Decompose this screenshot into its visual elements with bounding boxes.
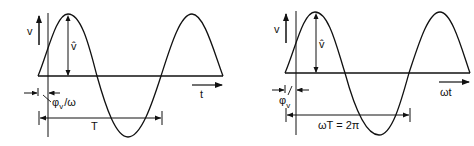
phase-leader [43,95,51,102]
time-domain-diagram [24,13,223,137]
phase-leader [288,86,292,95]
phase-label: φv [279,94,290,110]
period-label: ωT = 2π [318,119,360,131]
t-axis-label: t [200,88,203,100]
omega-t-axis-label: ωt [440,86,452,98]
phase-label: φv/ω [52,96,76,111]
angle-domain-diagram [272,11,470,135]
v-axis-label: v [27,25,33,37]
amplitude-label: v̂ [319,38,325,50]
time-domain-labels: v v̂ t φv/ω T [27,25,203,132]
period-label: T [91,120,98,132]
v-axis-label: v [274,23,280,35]
amplitude-label: v̂ [71,40,77,52]
sine-wave-diagrams: v v̂ t φv/ω T v v̂ ωt φv ωT = 2π [0,0,474,146]
